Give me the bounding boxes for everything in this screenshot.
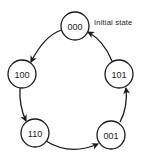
state-node-101: 101	[105, 60, 133, 88]
state-node-000: 000	[61, 12, 89, 40]
edge-001-to-101	[120, 88, 126, 122]
state-diagram: 000 100 110 001 101 Initial state	[0, 0, 151, 159]
state-label-110: 110	[28, 129, 42, 139]
state-label-101: 101	[111, 70, 126, 80]
edge-101-to-000	[88, 32, 112, 61]
state-node-001: 001	[97, 121, 125, 149]
edge-000-to-100	[31, 30, 62, 62]
state-label-000: 000	[67, 22, 82, 32]
edge-110-to-001	[46, 141, 98, 149]
state-node-100: 100	[8, 60, 36, 88]
initial-state-label: Initial state	[94, 18, 132, 27]
state-node-110: 110	[21, 119, 49, 147]
edge-100-to-110	[20, 88, 26, 121]
state-label-100: 100	[14, 70, 29, 80]
state-label-001: 001	[103, 131, 118, 141]
